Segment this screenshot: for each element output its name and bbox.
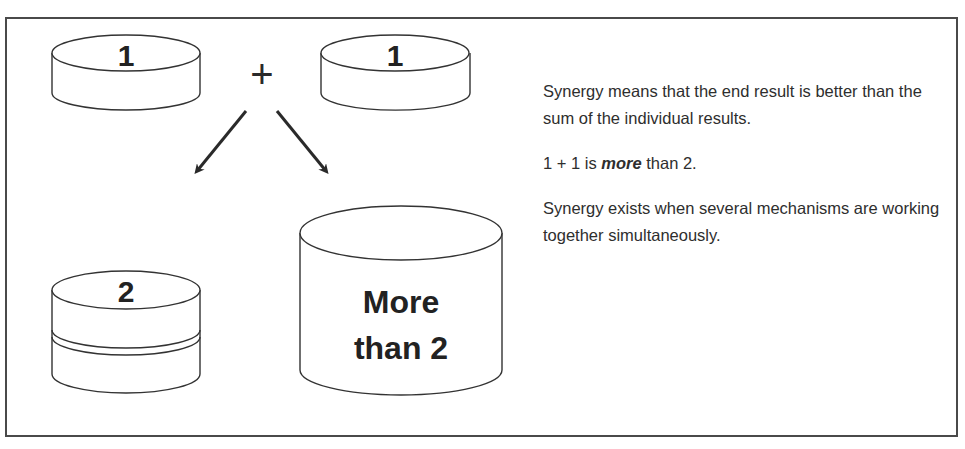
cylinder-top-right-label: 1 xyxy=(387,39,404,72)
caption-paragraph-equation: 1 + 1 is more than 2. xyxy=(543,150,943,177)
cylinder-bottom-right-label-line1: More xyxy=(363,284,439,320)
caption-equation-suffix: than 2. xyxy=(642,154,697,172)
cylinder-bottom-left: 2 xyxy=(52,271,200,393)
caption-paragraph-definition: Synergy means that the end result is bet… xyxy=(543,78,943,132)
arrow-down-right-icon xyxy=(277,111,326,171)
cylinder-bottom-right-label-line2: than 2 xyxy=(354,330,448,366)
cylinder-top-left: 1 xyxy=(52,35,200,110)
cylinder-top-left-label: 1 xyxy=(118,39,135,72)
caption-text: Synergy means that the end result is bet… xyxy=(543,78,943,267)
caption-equation-prefix: 1 + 1 is xyxy=(543,154,601,172)
caption-emphasis-more: more xyxy=(601,154,641,172)
caption-paragraph-existence: Synergy exists when several mechanisms a… xyxy=(543,195,943,249)
cylinder-bottom-right: More than 2 xyxy=(300,206,502,395)
cylinder-top-right: 1 xyxy=(321,35,470,110)
plus-icon: + xyxy=(250,52,273,96)
cylinder-bottom-left-label: 2 xyxy=(118,275,135,308)
arrow-down-left-icon xyxy=(197,111,246,171)
